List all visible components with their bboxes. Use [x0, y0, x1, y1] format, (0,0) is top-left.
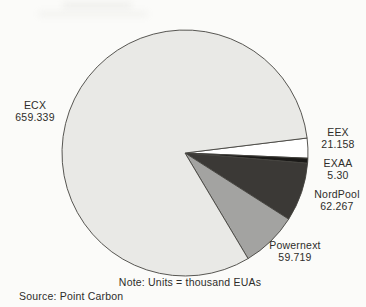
- slice-name: EEX: [321, 126, 354, 138]
- slice-label-eex: EEX 21.158: [321, 126, 354, 150]
- slice-name: EXAA: [324, 157, 353, 169]
- slice-label-exaa: EXAA 5.30: [324, 157, 353, 181]
- units-note: Note: Units = thousand EUAs: [119, 276, 261, 288]
- slice-value: 21.158: [321, 138, 354, 150]
- slice-name: NordPool: [314, 188, 359, 200]
- slice-value: 5.30: [324, 169, 353, 181]
- pie-chart-figure: ECX 659.339 EEX 21.158 EXAA 5.30 NordPoo…: [0, 0, 366, 307]
- slice-label-nordpool: NordPool 62.267: [314, 188, 359, 212]
- slice-value: 59.719: [269, 251, 320, 263]
- slice-name: ECX: [15, 99, 54, 111]
- slice-label-powernext: Powernext 59.719: [269, 239, 320, 263]
- source-credit: Source: Point Carbon: [19, 290, 123, 302]
- slice-value: 62.267: [314, 200, 359, 212]
- slice-name: Powernext: [269, 239, 320, 251]
- slice-value: 659.339: [15, 111, 54, 123]
- slice-label-ecx: ECX 659.339: [15, 99, 54, 123]
